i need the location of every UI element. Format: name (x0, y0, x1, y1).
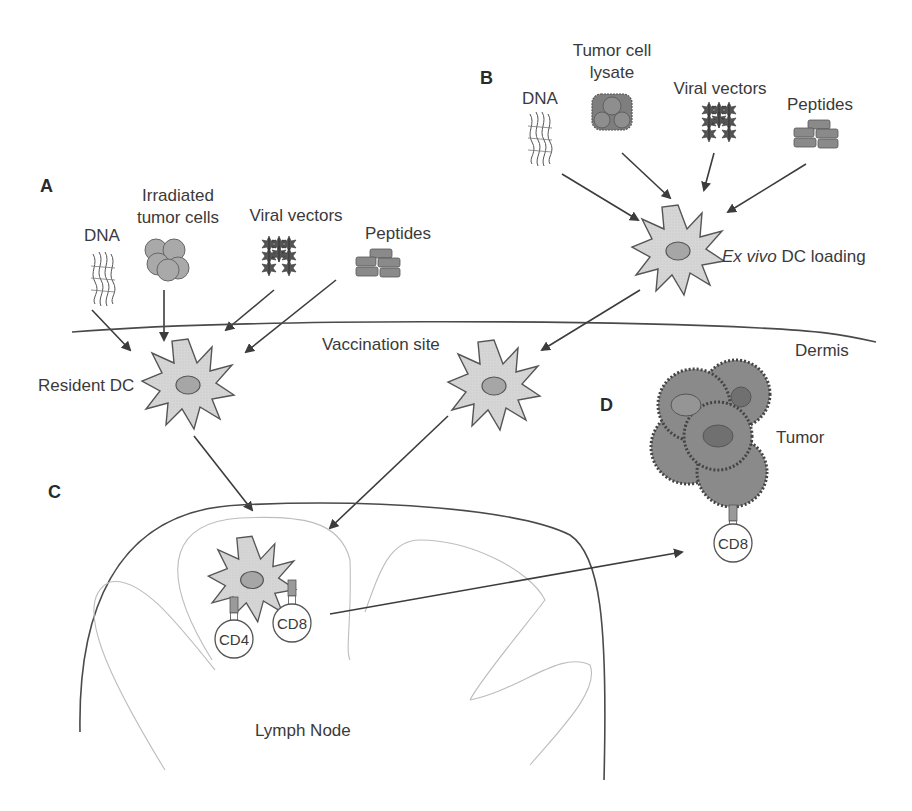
tumor-label: Tumor (776, 428, 825, 447)
follicle-4 (470, 662, 592, 765)
cd8-tumor-label: CD8 (718, 535, 748, 552)
vaccination-site-label: Vaccination site (322, 335, 440, 354)
resident-dc-label: Resident DC (38, 376, 134, 395)
tumor-icon (651, 360, 770, 507)
arrow-lysate-to-exvivo-dc (622, 153, 670, 198)
dermis-boundary (72, 322, 876, 342)
panel-b-antigens: DNA Tumor cell lysate Viral vectors Pept… (522, 41, 853, 166)
tumor-lysate-icon (592, 94, 632, 130)
dna-icon (528, 112, 552, 166)
antigen-label-tumor-cells-a: tumor cells (137, 208, 219, 227)
panel-a-antigens: DNA Irradiated tumor cells Viral vectors… (84, 186, 431, 306)
antigen-label-tumor-cell-b: Tumor cell (573, 41, 652, 60)
exvivo-rest: DC loading (777, 247, 866, 266)
viral-vectors-icon (702, 102, 736, 142)
arrow-resident-dc-to-lymph-node (194, 436, 252, 510)
exvivo-dc-label: Ex vivo DC loading (722, 247, 866, 266)
panel-label-a: A (40, 176, 53, 196)
arrow-injected-dc-to-lymph-node (330, 416, 448, 528)
resident-dc-icon (142, 339, 234, 429)
arrow-viral-to-exvivo-dc (704, 153, 714, 190)
arrow-peptides-to-exvivo-dc (728, 164, 806, 212)
antigen-label-viral-a: Viral vectors (249, 206, 342, 225)
antigen-label-dna-b: DNA (522, 89, 559, 108)
arrow-dna-to-exvivo-dc (562, 174, 638, 220)
exvivo-italic: Ex vivo (722, 247, 777, 266)
viral-vectors-icon (262, 236, 296, 276)
dna-icon (91, 252, 115, 306)
panel-label-c: C (48, 482, 61, 502)
antigen-label-lysate-b: lysate (590, 63, 634, 82)
antigen-label-peptides-b: Peptides (787, 95, 853, 114)
panel-label-d: D (600, 395, 613, 415)
arrow-cd8-to-tumor (330, 552, 682, 614)
follicle-2 (94, 581, 215, 770)
cd4-label: CD4 (219, 631, 249, 648)
lymph-node-label: Lymph Node (255, 721, 351, 740)
antigen-label-dna-a: DNA (84, 226, 121, 245)
follicle-3 (365, 540, 545, 700)
dermis-label: Dermis (795, 341, 849, 360)
peptides-icon (356, 249, 400, 277)
arrow-exvivo-to-injected-dc (542, 290, 640, 350)
cd8-lymph-node-label: CD8 (277, 615, 307, 632)
tumor-cells-icon (145, 239, 189, 281)
antigen-label-viral-b: Viral vectors (673, 79, 766, 98)
panel-label-b: B (480, 68, 493, 88)
antigen-label-peptides-a: Peptides (365, 224, 431, 243)
dendritic-cell-vaccine-diagram: A B C D DNA Irradiated tumor cells Viral… (0, 0, 912, 811)
injected-dc-icon (448, 340, 540, 430)
peptides-icon (794, 120, 838, 148)
exvivo-dc-icon (632, 205, 724, 295)
antigen-label-irradiated-a: Irradiated (142, 186, 214, 205)
